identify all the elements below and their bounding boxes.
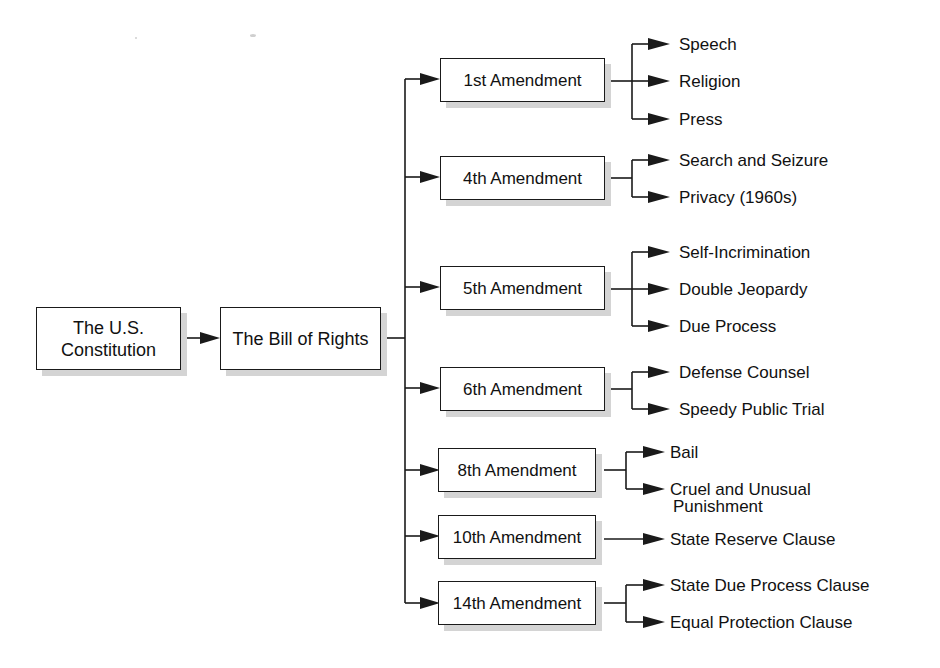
right-speedy-public-trial: Speedy Public Trial [679, 400, 825, 419]
right-defense-counsel: Defense Counsel [679, 363, 809, 382]
arrow-icon [643, 533, 665, 545]
amendment-node-4th: 4th Amendment [440, 156, 605, 200]
arrow-icon [420, 171, 440, 183]
right-due-process: Due Process [679, 317, 776, 336]
amendment-node-5th: 5th Amendment [440, 266, 605, 310]
bill-of-rights-label: The Bill of Rights [232, 328, 368, 350]
right-cruel-and-unusual-line2: Punishment [673, 497, 763, 516]
right-self-incrimination: Self-Incrimination [679, 243, 810, 262]
amendment-label: 8th Amendment [457, 460, 576, 481]
arrow-icon [648, 246, 670, 258]
amendment-node-14th: 14th Amendment [438, 581, 596, 625]
arrow-icon [648, 366, 670, 378]
arrow-icon [648, 320, 670, 332]
amendment-node-8th: 8th Amendment [438, 448, 596, 492]
arrow-icon [420, 73, 440, 85]
arrow-icon [648, 38, 670, 50]
constitution-label-line1: The U.S. [73, 317, 144, 339]
bill-of-rights-diagram: The U.S. Constitution The Bill of Rights… [0, 0, 940, 668]
arrow-icon [643, 483, 665, 495]
amendment-node-6th: 6th Amendment [440, 367, 605, 411]
amendment-label: 6th Amendment [463, 379, 582, 400]
arrow-icon [643, 446, 665, 458]
amendment-label: 1st Amendment [463, 70, 581, 91]
right-equal-protection-clause: Equal Protection Clause [670, 613, 852, 632]
arrow-icon [200, 332, 220, 344]
right-search-and-seizure: Search and Seizure [679, 151, 828, 170]
constitution-label-line2: Constitution [61, 339, 156, 361]
arrow-icon [648, 403, 670, 415]
arrow-icon [420, 464, 440, 476]
arrow-icon [420, 281, 440, 293]
arrow-icon [643, 579, 665, 591]
right-state-due-process-clause: State Due Process Clause [670, 576, 869, 595]
arrow-icon [648, 75, 670, 87]
arrow-icon [420, 597, 440, 609]
amendment-label: 4th Amendment [463, 168, 582, 189]
arrow-icon [648, 154, 670, 166]
right-double-jeopardy: Double Jeopardy [679, 280, 808, 299]
right-press: Press [679, 110, 722, 129]
amendment-node-10th: 10th Amendment [438, 515, 596, 559]
arrow-icon [648, 191, 670, 203]
amendment-node-1st: 1st Amendment [440, 58, 605, 102]
arrow-icon [643, 616, 665, 628]
arrow-icon [648, 283, 670, 295]
amendment-label: 5th Amendment [463, 278, 582, 299]
right-state-reserve-clause: State Reserve Clause [670, 530, 835, 549]
arrow-icon [420, 382, 440, 394]
right-bail: Bail [670, 443, 698, 462]
right-speech: Speech [679, 35, 737, 54]
bill-of-rights-node: The Bill of Rights [220, 307, 381, 370]
right-religion: Religion [679, 72, 740, 91]
arrow-icon [420, 530, 440, 542]
arrow-icon [648, 113, 670, 125]
right-privacy: Privacy (1960s) [679, 188, 797, 207]
constitution-node: The U.S. Constitution [36, 307, 181, 370]
amendment-label: 10th Amendment [453, 527, 582, 548]
amendment-label: 14th Amendment [453, 593, 582, 614]
